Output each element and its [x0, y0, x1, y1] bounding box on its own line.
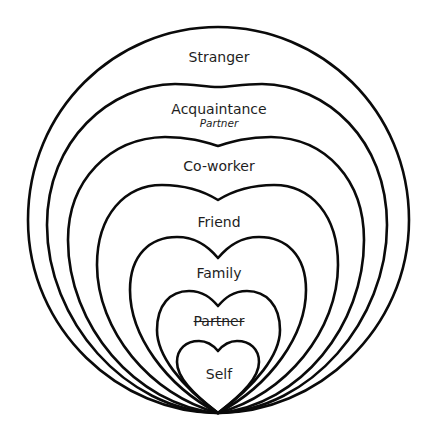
stranger-label: Stranger [0, 49, 438, 65]
partner-label: Partner [0, 313, 438, 329]
coworker-label: Co-worker [0, 158, 438, 174]
self-label: Self [0, 366, 438, 382]
friend-label: Friend [0, 214, 438, 230]
family-label: Family [0, 265, 438, 281]
acquaintance-label: Acquaintance [0, 101, 438, 117]
acquaintance-sublabel: Partner [0, 117, 438, 129]
